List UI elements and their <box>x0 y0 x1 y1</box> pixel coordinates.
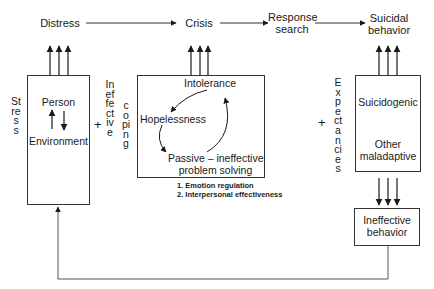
label-ineffective: Ineffective <box>105 80 115 190</box>
label-stress: Stress <box>11 97 21 157</box>
note-interpersonal-effectiveness: 2. Interpersonal effectiveness <box>177 190 282 199</box>
label-distress: Distress <box>40 17 80 29</box>
label-hopelessness: Hopelessness <box>140 113 208 125</box>
label-response-search-2: search <box>268 23 316 35</box>
label-suicidal-behavior-1: Suicidal <box>365 12 413 24</box>
label-suicidal-behavior-2: behavior <box>365 24 413 36</box>
triple-arrow-up-right <box>379 46 397 75</box>
label-maladaptive: maladaptive <box>355 150 421 162</box>
label-person: Person <box>27 96 90 108</box>
feedback-loop-arrow <box>58 207 388 279</box>
label-expectancies: Expectancies <box>333 78 343 198</box>
plus-operator-1: + <box>94 118 102 131</box>
label-response-search-1: Response <box>268 11 316 23</box>
label-suicidogenic: Suicidogenic <box>355 96 421 108</box>
plus-operator-2: + <box>318 116 326 129</box>
triple-arrow-up-middle <box>191 46 208 75</box>
label-other: Other <box>355 138 421 150</box>
label-coping: coping <box>121 101 131 161</box>
label-environment: Environment <box>27 135 90 147</box>
label-crisis: Crisis <box>181 17 217 29</box>
note-emotion-regulation: 1. Emotion regulation <box>177 181 254 190</box>
label-passive-2: problem solving <box>168 164 263 176</box>
label-passive-1: Passive – ineffective <box>168 152 263 164</box>
label-intolerance: Intolerance <box>180 77 240 89</box>
label-ineffective-behavior-1: Ineffective <box>354 214 420 226</box>
label-ineffective-behavior-2: behavior <box>354 226 420 238</box>
triple-arrow-up-left <box>50 46 68 75</box>
triple-arrow-down-right <box>379 178 397 205</box>
